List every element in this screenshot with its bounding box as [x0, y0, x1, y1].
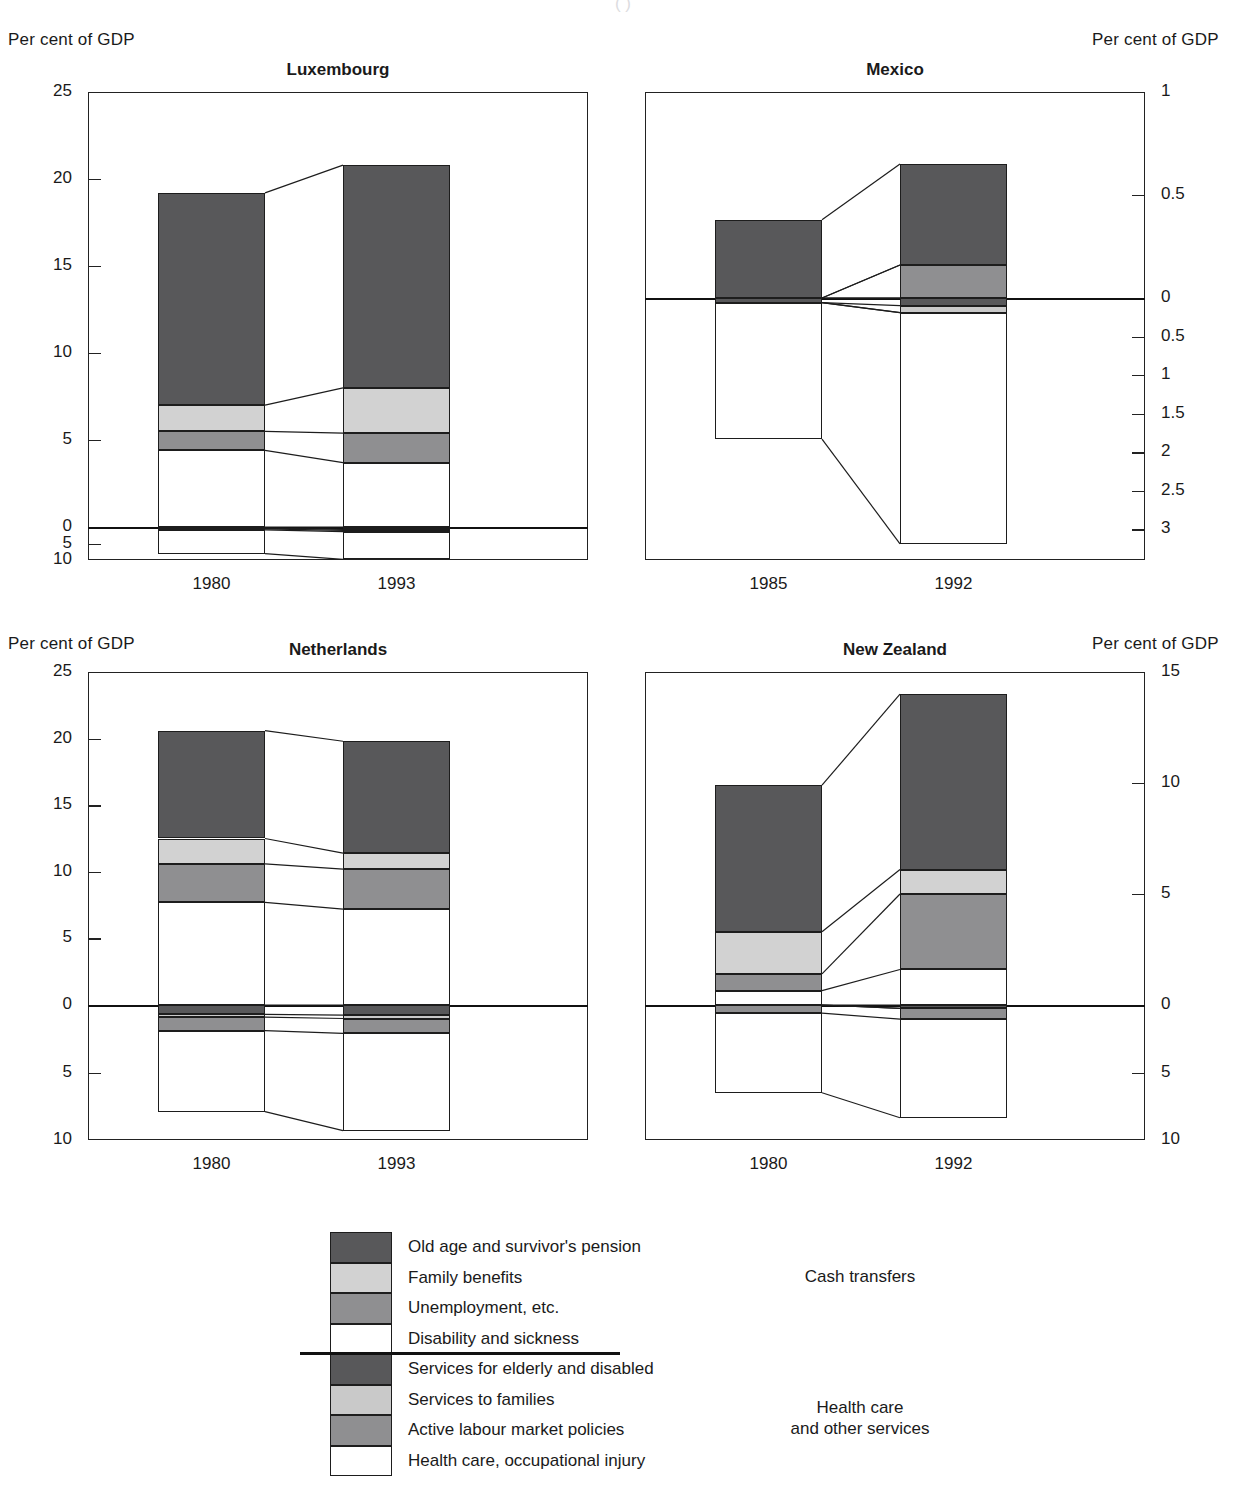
bar-segment [715, 1005, 822, 1013]
x-tick-label: 1980 [152, 574, 272, 594]
y-tick-label: 5 [26, 1062, 72, 1082]
y-tick [88, 872, 101, 873]
y-tick-label: 10 [26, 861, 72, 881]
bar-segment [158, 1005, 265, 1014]
legend-label: Services to families [408, 1390, 554, 1410]
legend-label: Services for elderly and disabled [408, 1359, 654, 1379]
bar-segment [343, 388, 450, 433]
bar-segment [343, 463, 450, 527]
axis-title-top-right: Per cent of GDP [1092, 30, 1219, 50]
bar-segment [900, 1008, 1007, 1019]
bar-segment [158, 530, 265, 554]
bar-segment [158, 902, 265, 1005]
y-tick [88, 805, 101, 806]
legend-label: Unemployment, etc. [408, 1298, 559, 1318]
y-tick-label: 3 [1161, 518, 1217, 538]
stacked-bar-1992 [900, 92, 1007, 560]
bar-segment [715, 991, 822, 1005]
bar-segment [158, 864, 265, 903]
bar-segment [343, 433, 450, 463]
y-tick [88, 353, 101, 354]
y-tick-label: 15 [26, 255, 72, 275]
y-tick-label: 0 [1161, 287, 1217, 307]
legend-swatch [330, 1324, 392, 1355]
bar-segment [158, 731, 265, 839]
legend-group-cash: Cash transfers [740, 1266, 980, 1287]
bar-segment [343, 165, 450, 388]
y-tick-label: 0 [1161, 994, 1217, 1014]
bar-segment [715, 785, 822, 932]
bar-segment [900, 298, 1007, 306]
legend-swatch [330, 1385, 392, 1416]
y-tick [88, 938, 101, 939]
y-tick [88, 440, 101, 441]
legend-group-health: Health care and other services [740, 1397, 980, 1440]
y-tick [1132, 452, 1145, 453]
chart-legend: Old age and survivor's pensionFamily ben… [330, 1232, 1030, 1482]
y-tick [1132, 375, 1145, 376]
panel-title: Netherlands [88, 640, 588, 660]
y-tick-label: 25 [26, 661, 72, 681]
y-tick [88, 266, 101, 267]
y-tick [1132, 195, 1145, 196]
bar-segment [343, 1019, 450, 1034]
bar-segment [158, 431, 265, 450]
y-tick-label: 2.5 [1161, 480, 1217, 500]
y-tick [1132, 1073, 1145, 1074]
y-tick [1132, 783, 1145, 784]
bar-segment [343, 909, 450, 1005]
bar-segment [715, 1013, 822, 1093]
bar-segment [900, 265, 1007, 298]
chart-panel-netherlands: Netherlands252015105051019801993 [88, 672, 588, 1200]
x-tick-label: 1992 [894, 574, 1014, 594]
y-tick-label: 0.5 [1161, 184, 1217, 204]
bar-segment [158, 193, 265, 405]
y-tick [88, 739, 101, 740]
bar-segment [343, 1005, 450, 1015]
bar-segment [715, 303, 822, 439]
bar-segment [900, 1019, 1007, 1118]
y-tick-label: 10 [26, 549, 72, 569]
y-tick [1132, 894, 1145, 895]
panel-title: Luxembourg [88, 60, 588, 80]
panel-title: New Zealand [645, 640, 1145, 660]
bar-segment [343, 741, 450, 853]
bar-segment [900, 969, 1007, 1005]
legend-label: Old age and survivor's pension [408, 1237, 641, 1257]
legend-swatch [330, 1293, 392, 1324]
y-tick-label: 15 [1161, 661, 1217, 681]
y-tick-label: 5 [26, 429, 72, 449]
y-tick-label: 0 [26, 994, 72, 1014]
y-tick-label: 0.5 [1161, 326, 1217, 346]
y-tick-label: 5 [1161, 883, 1217, 903]
y-tick-label: 10 [1161, 772, 1217, 792]
y-tick-label: 20 [26, 728, 72, 748]
x-tick-label: 1985 [709, 574, 829, 594]
y-tick [88, 1073, 101, 1074]
y-tick [1132, 529, 1145, 530]
x-tick-label: 1980 [152, 1154, 272, 1174]
x-tick-label: 1980 [709, 1154, 829, 1174]
chart-panel-new-zealand: New Zealand15105051019801992 [645, 672, 1145, 1200]
legend-swatch [330, 1354, 392, 1385]
legend-swatch [330, 1446, 392, 1477]
legend-label: Family benefits [408, 1268, 522, 1288]
bar-segment [343, 1033, 450, 1130]
y-tick-label: 5 [1161, 1062, 1217, 1082]
y-tick-label: 10 [1161, 1129, 1217, 1149]
bar-segment [715, 974, 822, 991]
bar-segment [343, 532, 450, 560]
bar-segment [158, 1017, 265, 1031]
x-tick-label: 1992 [894, 1154, 1014, 1174]
stacked-bar-1980 [158, 92, 265, 560]
x-tick-label: 1993 [337, 1154, 457, 1174]
y-tick-label: 2 [1161, 441, 1217, 461]
bar-segment [900, 894, 1007, 969]
legend-swatch [330, 1263, 392, 1294]
y-tick-label: 1 [1161, 364, 1217, 384]
bar-segment [343, 869, 450, 909]
x-tick-label: 1993 [337, 574, 457, 594]
y-tick [88, 544, 101, 545]
bar-segment [715, 220, 822, 298]
y-tick [88, 179, 101, 180]
